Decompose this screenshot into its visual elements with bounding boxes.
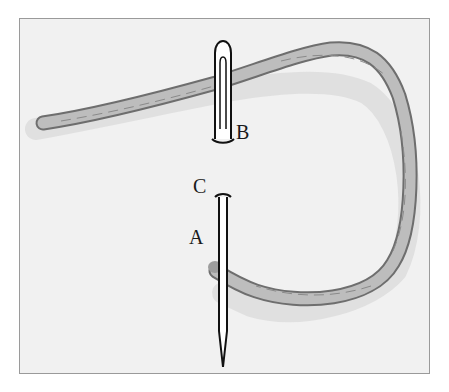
lower-needle-top xyxy=(215,194,231,197)
upper-needle-base xyxy=(212,139,234,143)
label-c: C xyxy=(193,176,206,196)
needle-thread-illustration xyxy=(20,19,430,374)
label-b: B xyxy=(236,122,249,142)
upper-needle-eye xyxy=(215,41,231,139)
label-a: A xyxy=(189,227,203,247)
lower-needle xyxy=(219,197,227,367)
illustration-frame xyxy=(19,18,430,374)
